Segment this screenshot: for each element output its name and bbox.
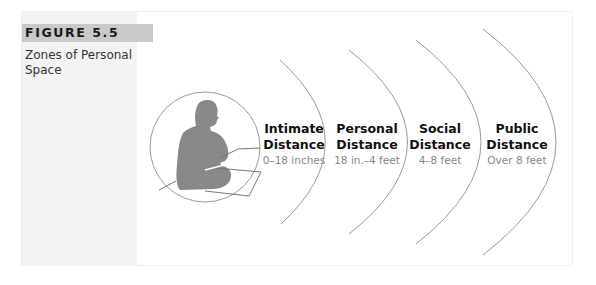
zone-title: Public — [477, 121, 557, 137]
person-at-desk-icon — [150, 92, 261, 202]
zone-intimate: Intimate Distance 0–18 inches — [254, 121, 334, 167]
zone-public: Public Distance Over 8 feet — [477, 121, 557, 167]
zone-personal: Personal Distance 18 in.–4 feet — [327, 121, 407, 167]
zone-title: Distance — [327, 137, 407, 153]
zone-range: Over 8 feet — [477, 153, 557, 167]
zone-range: 18 in.–4 feet — [327, 153, 407, 167]
zone-title: Distance — [400, 137, 480, 153]
zone-title: Personal — [327, 121, 407, 137]
zone-title: Distance — [477, 137, 557, 153]
zone-title: Intimate — [254, 121, 334, 137]
zone-title: Social — [400, 121, 480, 137]
zone-social: Social Distance 4–8 feet — [400, 121, 480, 167]
zone-title: Distance — [254, 137, 334, 153]
zone-range: 0–18 inches — [254, 153, 334, 167]
zone-range: 4–8 feet — [400, 153, 480, 167]
